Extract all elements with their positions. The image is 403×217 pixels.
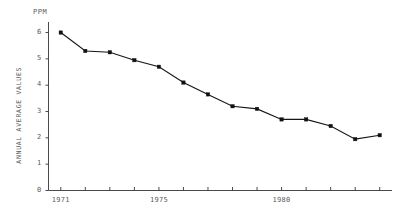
data-point-marker: [354, 137, 357, 140]
y-tick-label: 5: [30, 55, 42, 62]
x-tick-label: 1971: [41, 197, 81, 204]
data-point-marker: [133, 58, 136, 61]
axes-group: [49, 22, 393, 191]
y-tick-label: 2: [30, 134, 42, 141]
data-point-marker: [157, 65, 160, 68]
x-axis-ticks: [61, 187, 380, 191]
data-point-marker: [304, 118, 307, 121]
data-point-marker: [206, 93, 209, 96]
data-point-marker: [59, 31, 62, 34]
data-point-markers: [59, 31, 381, 141]
data-series-line: [61, 33, 380, 140]
x-tick-label: 1975: [139, 197, 179, 204]
data-point-marker: [255, 107, 258, 110]
data-point-marker: [84, 49, 87, 52]
chart-container: PPM ANNUAL AVERAGE VALUES 6543210 197119…: [0, 0, 403, 217]
y-tick-label: 3: [30, 108, 42, 115]
plot-area: [0, 0, 403, 217]
data-point-marker: [108, 51, 111, 54]
y-tick-label: 4: [30, 81, 42, 88]
y-tick-label: 0: [30, 187, 42, 194]
y-tick-label: 6: [30, 29, 42, 36]
data-point-marker: [231, 105, 234, 108]
data-point-marker: [378, 134, 381, 137]
data-point-marker: [280, 118, 283, 121]
x-tick-label: 1980: [262, 197, 302, 204]
data-point-marker: [329, 124, 332, 127]
y-tick-label: 1: [30, 160, 42, 167]
data-point-marker: [182, 81, 185, 84]
